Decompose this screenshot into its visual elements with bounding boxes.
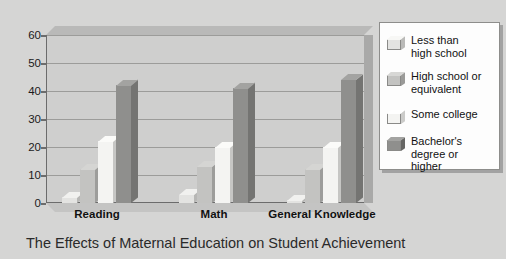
y-axis-tick-mark (41, 175, 46, 177)
bar-front-face (116, 85, 131, 203)
legend-swatch-icon (387, 36, 404, 50)
x-axis-label-reading: Reading (31, 208, 163, 221)
bar-front-face (197, 167, 212, 203)
bar (305, 169, 320, 203)
swatch-front-face (387, 140, 401, 151)
bar (116, 85, 131, 203)
y-axis-tick-mark (41, 203, 46, 205)
swatch-front-face (387, 39, 401, 50)
bar (233, 88, 248, 203)
bar-front-face (215, 147, 230, 203)
y-axis-tick-mark (41, 119, 46, 121)
chart-back-wall (46, 35, 364, 203)
chart-3d-right-face (364, 35, 373, 203)
y-axis-tick-label: 30 (28, 113, 41, 125)
legend-item: Bachelor's degree or higher (387, 135, 462, 173)
legend-swatch-icon (387, 137, 404, 151)
legend-swatch-icon (387, 72, 404, 86)
legend-label: Less than high school (411, 34, 467, 59)
bar-group (287, 35, 359, 203)
legend-item: Some college (387, 108, 478, 124)
legend-label: Some college (411, 108, 478, 121)
bar-front-face (305, 169, 320, 203)
legend: Less than high schoolHigh school or equi… (379, 22, 500, 170)
figure-caption: The Effects of Maternal Education on Stu… (26, 235, 405, 251)
y-axis-tick-mark (41, 35, 46, 37)
bar-side-face (131, 80, 138, 203)
bar-front-face (233, 88, 248, 203)
bar (179, 195, 194, 203)
y-axis-tick-label: 60 (28, 29, 41, 41)
bar-group (62, 35, 134, 203)
bar-side-face (248, 83, 255, 203)
bar-front-face (80, 169, 95, 203)
chart-3d-top-face (46, 26, 373, 35)
bar-front-face (62, 197, 77, 203)
legend-label: High school or equivalent (411, 70, 481, 95)
bar (98, 141, 113, 203)
x-axis-label-general-knowledge: General Knowledge (256, 208, 388, 221)
bar (341, 80, 356, 203)
legend-swatch-icon (387, 110, 404, 124)
bar-front-face (179, 195, 194, 203)
swatch-front-face (387, 75, 401, 86)
bar (197, 167, 212, 203)
y-axis-tick-label: 20 (28, 141, 41, 153)
y-axis-tick-label: 10 (28, 169, 41, 181)
bar-side-face (356, 74, 363, 203)
bar-front-face (323, 147, 338, 203)
legend-item: Less than high school (387, 34, 467, 59)
y-axis-tick-mark (41, 147, 46, 149)
bar-front-face (341, 80, 356, 203)
legend-item: High school or equivalent (387, 70, 481, 95)
bar-front-face (98, 141, 113, 203)
y-axis-tick-label: 50 (28, 57, 41, 69)
bar (80, 169, 95, 203)
y-axis-tick-mark (41, 63, 46, 65)
y-axis-tick-label: 40 (28, 85, 41, 97)
chart-plot-area: 0102030405060 (46, 26, 373, 203)
bar (62, 197, 77, 203)
figure: 0102030405060 ReadingMathGeneral Knowled… (0, 0, 506, 259)
y-axis-tick-mark (41, 91, 46, 93)
bar-group (179, 35, 251, 203)
swatch-front-face (387, 113, 401, 124)
bar (215, 147, 230, 203)
bar (287, 200, 302, 203)
legend-label: Bachelor's degree or higher (411, 135, 462, 173)
bar (323, 147, 338, 203)
